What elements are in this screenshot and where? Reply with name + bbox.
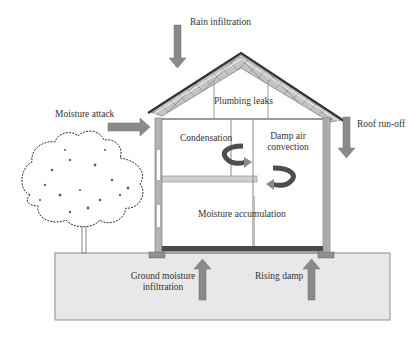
label-rising-damp: Rising damp [255,271,303,282]
roof-runoff-arrow-icon [338,117,355,158]
ground [55,253,390,320]
label-ground-moisture-line2: infiltration [128,282,198,293]
label-ground-moisture-line1: Ground moisture [128,271,198,282]
moisture-attack-arrow-icon [108,118,150,136]
label-damp-air-line1: Damp air [263,131,313,142]
label-roof-runoff: Roof run-off [357,119,405,130]
moisture-diagram: Rain infiltration Plumbing leaks Moistur… [0,0,416,338]
condensation-swirl-icon [224,146,252,168]
rain-arrow-icon [169,25,186,68]
label-damp-air-line2: convection [263,142,313,153]
diagram-canvas [0,0,416,338]
label-rain-infiltration: Rain infiltration [190,17,251,28]
label-condensation: Condensation [180,133,232,144]
label-moisture-accumulation: Moisture accumulation [198,209,286,220]
label-plumbing-leaks: Plumbing leaks [214,96,273,107]
tree-icon [22,131,143,253]
label-moisture-attack: Moisture attack [55,109,114,120]
label-damp-air-convection: Damp air convection [263,131,313,153]
label-ground-moisture-infiltration: Ground moisture infiltration [128,271,198,293]
convection-swirl-icon [266,168,293,190]
